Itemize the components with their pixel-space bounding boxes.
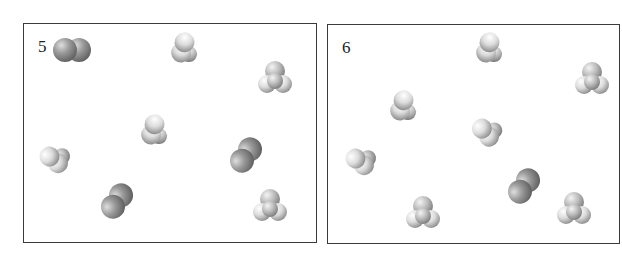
light-molecule-icon	[469, 28, 510, 70]
pyramid-molecule-icon	[575, 62, 609, 94]
light-molecule-icon	[36, 138, 76, 178]
light-molecule-icon	[342, 140, 382, 180]
molecule-layer	[0, 0, 622, 261]
diatomic-molecule-icon	[225, 133, 266, 178]
diatomic-molecule-icon	[503, 164, 544, 209]
diatomic-molecule-icon	[96, 179, 137, 224]
pyramid-molecule-icon	[258, 61, 292, 93]
light-molecule-icon	[469, 113, 507, 151]
light-molecule-icon	[134, 110, 175, 152]
light-molecule-icon	[164, 28, 205, 70]
diatomic-molecule-icon	[53, 38, 91, 62]
light-molecule-icon	[383, 86, 424, 128]
pyramid-molecule-icon	[406, 196, 440, 228]
pyramid-molecule-icon	[253, 189, 287, 221]
pyramid-molecule-icon	[557, 192, 591, 224]
